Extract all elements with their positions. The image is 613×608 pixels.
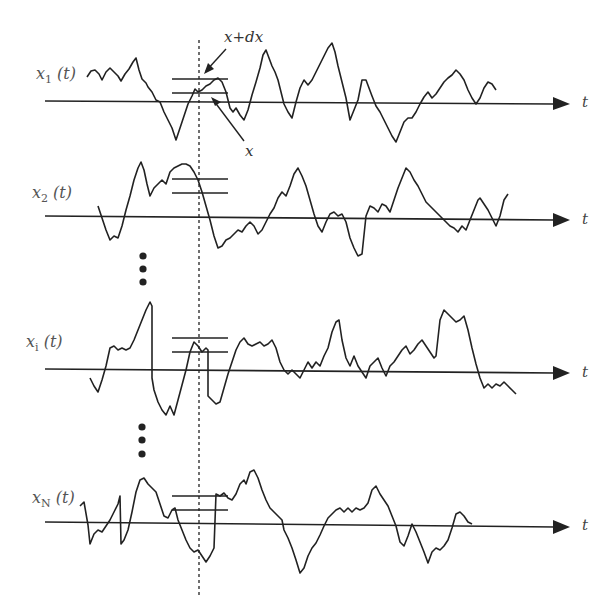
ensemble-diagram: x1 (t) x2 (t) xi (t) xN (t) t t t t x+dx… (0, 0, 613, 608)
annotation-x-plus-dx: x+dx (224, 28, 263, 46)
label-main: x (32, 183, 41, 202)
label-arg: (t) (52, 64, 76, 83)
signal-trace-i (90, 302, 516, 415)
label-main: x (26, 332, 35, 351)
signal-trace-1 (87, 43, 496, 142)
ellipsis-dot (138, 423, 145, 430)
ellipsis-dot (139, 265, 146, 272)
annotation-arrows (204, 49, 244, 141)
ellipsis-dot (138, 436, 145, 443)
axis-label-t-1: t (582, 93, 588, 111)
signal-trace-N (80, 470, 472, 573)
axis-label-t-i: t (582, 363, 588, 381)
ellipsis-dot (139, 252, 146, 259)
signal-trace-2 (98, 162, 508, 256)
label-arg: (t) (51, 488, 75, 507)
signal-label-N: xN (t) (32, 488, 75, 510)
axis-label-t-N: t (582, 516, 588, 534)
signal-label-2: x2 (t) (32, 183, 72, 205)
ellipsis-dot (138, 450, 145, 457)
label-sub: 2 (41, 192, 48, 205)
label-sub: 1 (45, 73, 52, 86)
label-main: x (36, 64, 45, 83)
diagram-canvas (0, 0, 613, 608)
time-axis-2 (45, 216, 555, 220)
signal-2 (45, 162, 570, 256)
signal-label-1: x1 (t) (36, 64, 76, 86)
axis-arrowhead-N (553, 520, 570, 534)
label-arg: (t) (48, 183, 72, 202)
label-sub: N (41, 497, 51, 510)
ellipsis-dot (139, 278, 146, 285)
time-axis-N (45, 522, 555, 527)
label-arg: (t) (39, 332, 63, 351)
axis-arrowhead-1 (553, 97, 570, 110)
annotation-x: x (245, 142, 253, 160)
axis-arrowhead-i (553, 366, 570, 380)
signal-label-i: xi (t) (26, 332, 63, 354)
label-main: x (32, 488, 41, 507)
signal-1 (45, 43, 570, 142)
axis-arrowhead-2 (553, 213, 570, 227)
signal-i (45, 302, 570, 415)
axis-label-t-2: t (582, 210, 588, 228)
signal-N (45, 470, 570, 573)
